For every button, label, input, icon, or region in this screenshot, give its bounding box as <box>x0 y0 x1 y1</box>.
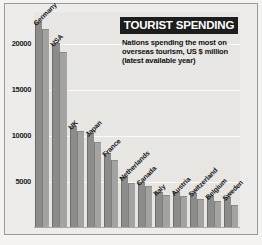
bar-japan-1 <box>87 133 94 228</box>
bar-italy-2 <box>162 195 169 228</box>
y-tick-label-5000: 5000 <box>3 178 31 186</box>
chart-title: TOURIST SPENDING <box>120 17 238 34</box>
y-tick-label-15000: 15000 <box>3 86 31 94</box>
bar-germany-1 <box>35 22 42 228</box>
chart-figure: 5000100001500020000 GermanyUSAUKJapanFra… <box>0 0 262 245</box>
subtitle-line-2: overseas tourism, US $ million <box>122 47 244 56</box>
bar-switzerland-1 <box>190 193 197 228</box>
bar-uk-2 <box>77 131 84 228</box>
bar-canada-1 <box>138 182 145 228</box>
chart-subtitle: Nations spending the most on overseas to… <box>122 38 244 66</box>
bar-japan-2 <box>94 142 101 228</box>
bar-switzerland-2 <box>197 199 204 228</box>
bar-austria-2 <box>180 196 187 228</box>
y-tick-label-10000: 10000 <box>3 132 31 140</box>
bar-netherlands-2 <box>128 183 135 228</box>
subtitle-line-3: (latest available year) <box>122 56 244 65</box>
chart-title-box: TOURIST SPENDING <box>120 17 238 34</box>
y-tick-label-20000: 20000 <box>3 40 31 48</box>
bar-belgium-2 <box>214 201 221 228</box>
axis-baseline <box>34 227 240 228</box>
subtitle-line-1: Nations spending the most on <box>122 38 244 47</box>
bar-usa-2 <box>59 52 66 228</box>
bar-france-2 <box>111 160 118 228</box>
bar-germany-2 <box>42 29 49 228</box>
bar-sweden-2 <box>231 205 238 228</box>
